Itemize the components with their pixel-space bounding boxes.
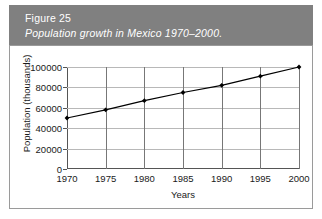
- y-tick-label: 40000: [36, 123, 62, 134]
- figure-title-label: Population growth in Mexico 1970–2000.: [25, 27, 222, 39]
- plot-area: 020000400006000080000100000 197019751980…: [67, 67, 299, 169]
- figure-number-label: Figure 25: [25, 12, 71, 24]
- x-tick-label: 1995: [250, 173, 271, 184]
- data-point-marker: [142, 98, 147, 103]
- figure-container: Figure 25 Population growth in Mexico 19…: [0, 0, 322, 219]
- x-tick-label: 1985: [172, 173, 193, 184]
- data-series-line: [67, 67, 299, 169]
- x-tick-label: 1970: [56, 173, 77, 184]
- data-point-marker: [65, 116, 70, 121]
- x-tick-label: 1990: [211, 173, 232, 184]
- x-tick-label: 1980: [134, 173, 155, 184]
- data-point-marker: [219, 83, 224, 88]
- data-point-marker: [297, 65, 302, 70]
- x-tick-label: 2000: [288, 173, 309, 184]
- x-tick-label: 1975: [95, 173, 116, 184]
- y-tick-label: 100000: [30, 62, 62, 73]
- data-point-marker: [258, 74, 263, 79]
- figure-caption-band: Figure 25 Population growth in Mexico 19…: [9, 5, 313, 47]
- y-tick-label: 60000: [36, 102, 62, 113]
- vertical-gridline: [299, 67, 300, 169]
- y-tick-label: 80000: [36, 82, 62, 93]
- data-point-marker: [181, 90, 186, 95]
- y-tick-mark: [63, 169, 67, 170]
- chart-panel: Population (thousands) 02000040000600008…: [9, 45, 313, 209]
- data-point-marker: [103, 107, 108, 112]
- x-axis-title: Years: [67, 189, 299, 200]
- series-markers: [65, 65, 302, 121]
- y-tick-label: 20000: [36, 143, 62, 154]
